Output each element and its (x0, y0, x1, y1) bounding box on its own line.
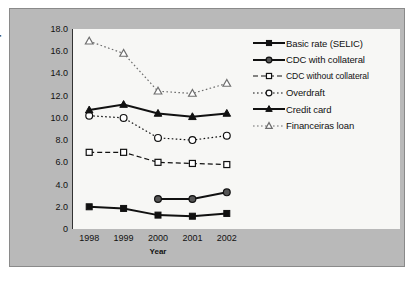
y-tick-label: 4.0 (32, 180, 68, 190)
series-4 (85, 101, 230, 120)
data-point-marker (224, 162, 230, 168)
data-point-marker (223, 132, 230, 139)
legend-marker-icon (252, 119, 286, 133)
data-point-marker (266, 41, 271, 46)
data-point-marker (121, 205, 127, 211)
y-tick-label: 16.0 (32, 46, 68, 56)
data-point-marker (266, 90, 272, 96)
y-tick-label: 14.0 (32, 68, 68, 78)
y-tick-label: 6.0 (32, 157, 68, 167)
x-tick-label: 2001 (182, 233, 202, 243)
x-tick-label: 2000 (148, 233, 168, 243)
legend-label: CDC without collateral (286, 71, 369, 81)
y-axis-tick-labels: 02.04.06.08.010.012.014.016.018.0 (24, 29, 68, 229)
data-point-marker (154, 87, 162, 94)
legend-item: CDC with collateral (252, 52, 402, 69)
series-1 (155, 189, 231, 202)
data-point-marker (120, 114, 127, 121)
data-point-marker (189, 137, 196, 144)
legend-label: Basic rate (SELIC) (286, 38, 363, 49)
data-point-marker (155, 212, 161, 218)
data-point-marker (189, 213, 195, 219)
data-point-marker (120, 101, 128, 108)
legend-item: Financeiras loan (252, 118, 402, 135)
legend-marker-icon (252, 53, 286, 67)
series-5 (85, 37, 230, 96)
x-axis-title: Year (72, 247, 244, 256)
data-point-marker (121, 149, 127, 155)
data-point-marker (155, 159, 161, 165)
data-point-marker (266, 122, 272, 128)
series-0 (86, 204, 230, 219)
legend-item: Overdraft (252, 85, 402, 102)
legend-marker-icon (252, 102, 286, 116)
legend-item: Basic rate (SELIC) (252, 35, 402, 52)
legend-label: Credit card (286, 104, 331, 115)
y-tick-label: 12.0 (32, 91, 68, 101)
plot-area (72, 29, 244, 229)
legend-label: Financeiras loan (286, 120, 354, 131)
data-point-marker (189, 196, 196, 203)
legend-label: CDC with collateral (286, 54, 365, 65)
series-2 (86, 149, 230, 167)
data-point-marker (85, 37, 93, 44)
series-line (89, 41, 227, 93)
y-tick-label: 10.0 (32, 113, 68, 123)
y-tick-label: 18.0 (32, 24, 68, 34)
data-point-marker (155, 134, 162, 141)
series-3 (86, 112, 230, 143)
y-tick-label: 0 (32, 224, 68, 234)
chart-legend: Basic rate (SELIC)CDC with collateralCDC… (252, 35, 402, 134)
data-point-marker (155, 196, 162, 203)
data-point-marker (86, 204, 92, 210)
series-canvas (72, 29, 244, 229)
legend-marker-icon (252, 69, 286, 83)
data-point-marker (86, 149, 92, 155)
x-tick-label: 2002 (217, 233, 237, 243)
data-point-marker (120, 49, 128, 56)
legend-marker-icon (252, 86, 286, 100)
y-axis-title: Percent per month (0, 0, 1, 67)
x-tick-label: 1999 (114, 233, 134, 243)
y-tick-label: 2.0 (32, 202, 68, 212)
x-axis-tick-labels: 19981999200020012002 (72, 233, 244, 247)
data-point-marker (224, 210, 230, 216)
data-point-marker (266, 74, 271, 79)
legend-label: Overdraft (286, 87, 325, 98)
legend-marker-icon (252, 36, 286, 50)
data-point-marker (223, 189, 230, 196)
legend-item: Credit card (252, 101, 402, 118)
legend-item: CDC without collateral (252, 68, 402, 85)
data-point-marker (266, 57, 272, 63)
x-tick-label: 1998 (79, 233, 99, 243)
chart-figure: Percent per month 02.04.06.08.010.012.01… (9, 8, 405, 267)
data-point-marker (189, 160, 195, 166)
data-point-marker (223, 79, 231, 86)
y-tick-label: 8.0 (32, 135, 68, 145)
